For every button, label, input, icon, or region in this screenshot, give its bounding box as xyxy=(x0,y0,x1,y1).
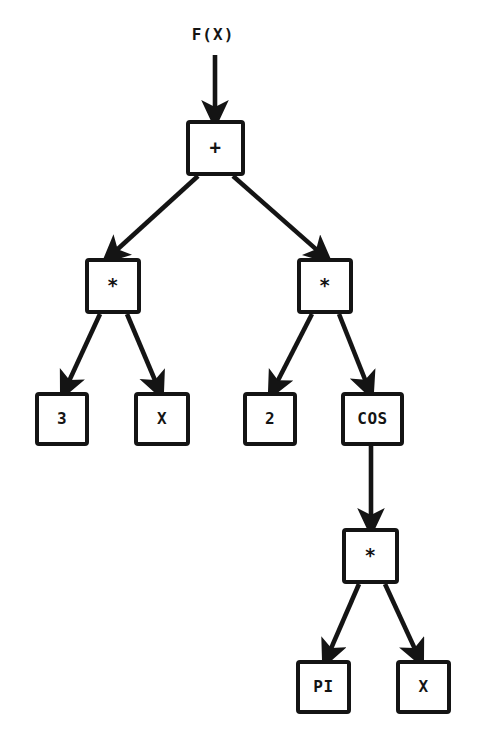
tree-node-label: * xyxy=(365,546,377,565)
tree-node-const-2[interactable]: 2 xyxy=(243,392,297,446)
tree-node-label: * xyxy=(107,276,119,295)
expression-tree-diagram: F(X) +**3X2COS*PIX xyxy=(0,0,477,745)
tree-node-label: + xyxy=(210,138,222,157)
tree-node-mul-bottom[interactable]: * xyxy=(342,528,399,584)
tree-node-mul-left[interactable]: * xyxy=(85,258,141,314)
tree-edge-mul-left-to-const-3 xyxy=(67,314,100,386)
tree-node-label: COS xyxy=(357,409,387,428)
tree-node-var-x-left[interactable]: X xyxy=(134,392,190,446)
tree-edge-root-to-mul-left xyxy=(113,176,198,254)
tree-edges-layer xyxy=(0,0,477,745)
tree-node-root[interactable]: + xyxy=(186,120,245,176)
tree-node-label: 3 xyxy=(57,409,67,428)
tree-node-const-3[interactable]: 3 xyxy=(35,392,89,446)
tree-edge-mul-right-to-const-2 xyxy=(275,314,312,386)
tree-node-label: * xyxy=(319,276,331,295)
tree-node-label: 2 xyxy=(265,409,275,428)
tree-node-label: X xyxy=(418,677,428,696)
tree-edge-mul-bottom-to-var-x xyxy=(385,584,417,654)
tree-node-var-x-bottom[interactable]: X xyxy=(396,660,451,714)
tree-edge-root-to-mul-right xyxy=(233,176,321,254)
tree-edge-mul-right-to-cos xyxy=(339,314,368,386)
tree-node-label: PI xyxy=(313,677,333,696)
tree-node-label: X xyxy=(157,409,167,428)
tree-edge-mul-bottom-to-pi xyxy=(328,584,359,654)
tree-node-func-cos[interactable]: COS xyxy=(341,392,404,446)
tree-node-const-pi[interactable]: PI xyxy=(296,660,351,714)
tree-edge-mul-left-to-var-x xyxy=(127,314,158,386)
input-label: F(X) xyxy=(192,25,235,44)
tree-node-mul-right[interactable]: * xyxy=(297,258,353,314)
